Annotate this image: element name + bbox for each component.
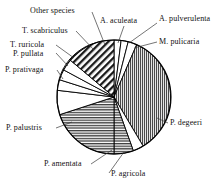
label-p-amentata: P. amentata [44,159,82,168]
label-other-species: Other species [30,6,75,15]
label-a-pulverulenta: A. pulverulenta [159,14,210,23]
leader-p-pullata [56,53,68,66]
label-p-palustris: P. palustris [6,123,42,132]
label-m-pulicaria: M. pulicaria [159,37,199,46]
label-a-aculeata: A. aculeata [100,16,137,25]
label-t-scabriculus: T. scabriculus [22,26,68,35]
label-p-prativaga: P. prativaga [5,65,44,74]
label-p-degeeri: P. degeeri [170,118,202,127]
label-p-agricola: P. agricola [111,169,145,178]
label-t-ruricola: T. ruricola [10,40,44,49]
leader-a-pulverulenta [129,23,157,43]
label-p-pullata: P. pullata [13,49,43,58]
